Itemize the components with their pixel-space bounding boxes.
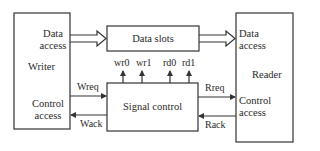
dataslots-to-reader-arrow (199, 31, 235, 46)
writer-data-label: Data (38, 28, 68, 40)
writer-title: Writer (28, 61, 55, 73)
signal-control-label: Signal control (107, 101, 198, 113)
writer-control-label: Control (30, 98, 66, 110)
writer-access-label: access (38, 40, 68, 52)
wack-label: Wack (80, 118, 103, 130)
reader-data-label: Data (239, 28, 266, 40)
writer-to-dataslots-arrow (70, 31, 106, 46)
reader-title: Reader (252, 69, 282, 81)
writer-data-access-label: Data access (38, 28, 68, 52)
writer-control-access-word: access (30, 110, 66, 122)
rd1-label: rd1 (182, 57, 195, 69)
data-slots-label: Data slots (107, 33, 199, 45)
wreq-label: Wreq (77, 81, 99, 93)
reader-control-access-label: Control access (239, 95, 271, 119)
reader-data-access-label: Data access (239, 28, 266, 52)
wr0-label: wr0 (114, 57, 130, 69)
rack-label: Rack (205, 119, 226, 131)
writer-control-access-label: Control access (30, 98, 66, 122)
reader-control-label: Control (239, 95, 271, 107)
rreq-label: Rreq (205, 82, 224, 94)
reader-access-label: access (239, 40, 266, 52)
wr1-label: wr1 (136, 57, 152, 69)
reader-control-access-word: access (239, 107, 271, 119)
rd0-label: rd0 (163, 57, 176, 69)
